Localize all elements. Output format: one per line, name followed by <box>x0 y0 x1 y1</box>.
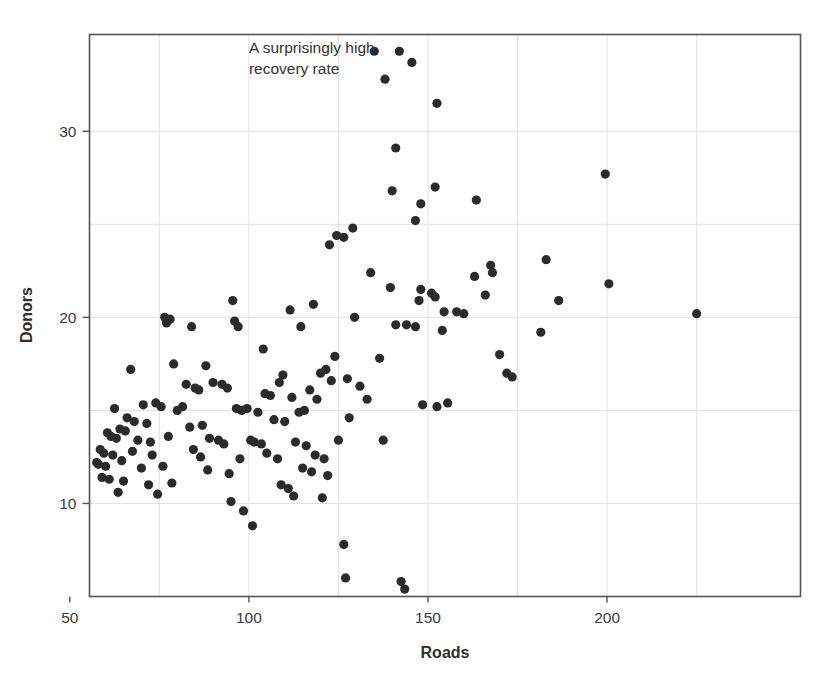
chart-annotation: A surprisingly highrecovery rate <box>249 39 375 77</box>
data-point <box>234 322 243 331</box>
data-point <box>285 305 294 314</box>
data-point <box>169 359 178 368</box>
data-point <box>536 328 545 337</box>
data-point <box>318 493 327 502</box>
data-point <box>380 75 389 84</box>
data-point <box>362 395 371 404</box>
data-point <box>395 47 404 56</box>
data-point <box>112 434 121 443</box>
data-point <box>99 449 108 458</box>
annotation-line: recovery rate <box>249 60 339 77</box>
data-point <box>334 436 343 445</box>
data-point <box>432 99 441 108</box>
data-point <box>205 434 214 443</box>
data-point <box>223 383 232 392</box>
data-point <box>248 521 257 530</box>
data-point <box>443 398 452 407</box>
data-point <box>302 441 311 450</box>
data-point <box>325 240 334 249</box>
data-point <box>257 439 266 448</box>
data-point <box>137 464 146 473</box>
data-point <box>275 378 284 387</box>
data-point <box>692 309 701 318</box>
data-point <box>488 268 497 277</box>
data-point <box>128 447 137 456</box>
data-point <box>182 380 191 389</box>
data-point <box>379 436 388 445</box>
data-point <box>400 584 409 593</box>
data-point <box>345 413 354 422</box>
data-point <box>119 477 128 486</box>
data-point <box>350 313 359 322</box>
data-point <box>158 462 167 471</box>
data-point <box>440 307 449 316</box>
data-point <box>291 437 300 446</box>
data-point <box>201 361 210 370</box>
data-point <box>139 400 148 409</box>
data-point <box>312 395 321 404</box>
data-point <box>203 465 212 474</box>
data-point <box>343 374 352 383</box>
data-point <box>146 437 155 446</box>
data-point <box>604 279 613 288</box>
x-tick-label: 150 <box>415 609 441 626</box>
data-point <box>164 432 173 441</box>
data-point <box>339 540 348 549</box>
data-point <box>416 285 425 294</box>
data-point <box>495 350 504 359</box>
y-tick-label: 10 <box>59 495 77 512</box>
data-point <box>431 292 440 301</box>
data-point <box>298 464 307 473</box>
x-axis-label: Roads <box>421 644 470 661</box>
data-point <box>287 393 296 402</box>
data-point <box>305 385 314 394</box>
data-point <box>121 426 130 435</box>
data-point <box>330 352 339 361</box>
data-point <box>239 506 248 515</box>
data-point <box>309 300 318 309</box>
data-point <box>266 391 275 400</box>
data-point <box>388 186 397 195</box>
data-point <box>311 450 320 459</box>
data-point <box>601 169 610 178</box>
data-point <box>219 439 228 448</box>
x-tick-label: 50 <box>61 609 79 626</box>
data-point <box>470 272 479 281</box>
chart-canvas: 50100150200102030 Roads Donors A surpris… <box>0 0 821 674</box>
data-point <box>144 480 153 489</box>
data-point <box>243 404 252 413</box>
data-point <box>339 233 348 242</box>
data-point <box>481 290 490 299</box>
data-point <box>320 454 329 463</box>
data-point <box>411 322 420 331</box>
data-point <box>198 421 207 430</box>
data-point <box>316 369 325 378</box>
data-point <box>167 478 176 487</box>
data-point <box>196 452 205 461</box>
y-axis-label: Donors <box>18 287 35 343</box>
data-point <box>289 491 298 500</box>
data-point <box>226 497 235 506</box>
data-point <box>431 183 440 192</box>
y-tick-label: 30 <box>59 123 77 140</box>
data-point <box>187 322 196 331</box>
data-point <box>142 419 151 428</box>
y-tick-label: 20 <box>59 309 77 326</box>
data-point <box>108 450 117 459</box>
data-point <box>280 417 289 426</box>
x-tick-label: 100 <box>236 609 262 626</box>
data-point <box>459 309 468 318</box>
data-point <box>341 573 350 582</box>
data-point <box>296 322 305 331</box>
data-point <box>348 223 357 232</box>
data-point <box>375 354 384 363</box>
data-point <box>414 296 423 305</box>
annotation-line: A surprisingly high <box>249 39 375 56</box>
data-point <box>228 296 237 305</box>
data-point <box>157 402 166 411</box>
data-point <box>110 404 119 413</box>
data-point <box>194 385 203 394</box>
data-point <box>416 199 425 208</box>
data-point <box>407 58 416 67</box>
data-point <box>307 467 316 476</box>
